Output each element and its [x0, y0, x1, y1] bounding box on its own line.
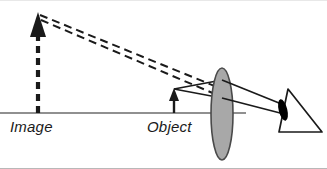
virtual-ray-group [40, 15, 217, 94]
upper-virtual-ray [40, 15, 217, 87]
image-label: Image [10, 118, 53, 135]
object-arrow [169, 88, 179, 113]
image-arrow [30, 12, 46, 113]
optics-diagram-canvas: Image Object [0, 1, 327, 169]
converging-lens [211, 68, 233, 160]
optics-ray-diagram: Image Object [0, 0, 327, 169]
lower-virtual-ray [41, 20, 215, 94]
object-label: Object [147, 118, 192, 135]
observer-eye [276, 89, 322, 132]
